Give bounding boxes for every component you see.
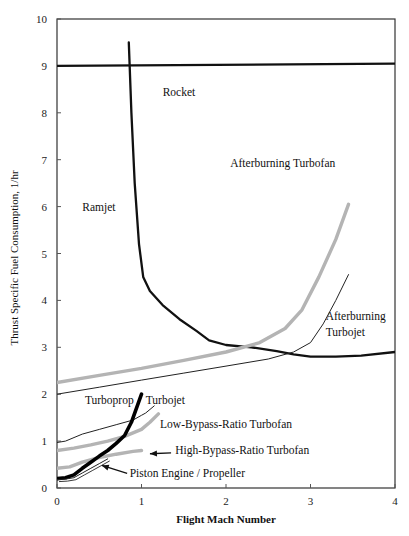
x-tick-label: 3 — [308, 495, 314, 507]
series-label: Turbojet — [326, 326, 366, 339]
series-rocket — [57, 64, 395, 66]
y-tick-label: 7 — [42, 154, 48, 166]
x-axis-title: Flight Mach Number — [176, 513, 276, 525]
series-label: Turboprop — [85, 394, 134, 407]
series-label: Afterburning — [326, 310, 386, 323]
y-axis-title: Thrust Specific Fuel Consumption, 1/hr — [8, 170, 20, 345]
y-tick-label: 4 — [42, 294, 48, 306]
series-turbojet — [57, 406, 154, 443]
tsfc-chart: 01234567891001234 RocketRamjetAfterburni… — [0, 0, 409, 536]
x-tick-label: 4 — [392, 495, 398, 507]
series-label: High-Bypass-Ratio Turbofan — [175, 444, 309, 457]
x-tick-label: 2 — [223, 495, 229, 507]
series-high-bypass-ratio-turbofan — [57, 451, 142, 469]
y-tick-label: 8 — [42, 107, 48, 119]
x-tick-label: 0 — [54, 495, 60, 507]
y-tick-label: 10 — [36, 13, 48, 25]
y-tick-label: 9 — [42, 60, 48, 72]
series-label: Turbojet — [146, 394, 186, 407]
series-label: Ramjet — [82, 201, 116, 214]
y-tick-label: 2 — [42, 388, 48, 400]
series-label: Rocket — [163, 86, 196, 98]
series-label: Piston Engine / Propeller — [130, 467, 245, 480]
series-label: Afterburning Turbofan — [230, 157, 335, 170]
x-tick-label: 1 — [139, 495, 145, 507]
y-tick-label: 1 — [42, 435, 48, 447]
series-low-bypass-ratio-turbofan — [57, 414, 158, 451]
y-tick-label: 6 — [42, 201, 48, 213]
series-label: Low-Bypass-Ratio Turbofan — [160, 418, 292, 431]
y-tick-label: 0 — [42, 482, 48, 494]
y-tick-label: 3 — [42, 341, 48, 353]
arrowhead-icon — [150, 450, 157, 456]
plot-series — [57, 43, 395, 482]
arrowhead-icon — [102, 465, 110, 471]
plot-axes: 01234567891001234 — [36, 13, 398, 507]
y-tick-label: 5 — [42, 248, 48, 260]
